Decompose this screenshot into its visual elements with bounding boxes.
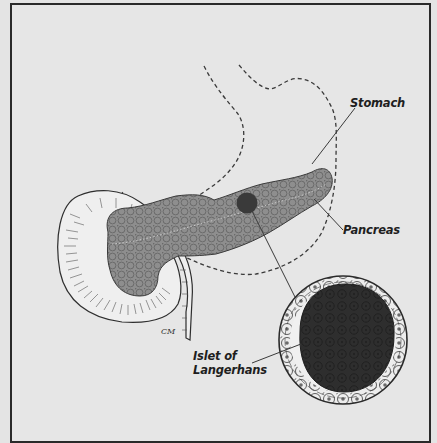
- islet-label-line2: Langerhans: [193, 363, 267, 377]
- islet-label: Islet of Langerhans: [193, 349, 267, 377]
- artist-signature: CM: [161, 327, 175, 336]
- stomach-label: Stomach: [350, 96, 405, 110]
- pancreas-label: Pancreas: [343, 223, 400, 237]
- islet-magnified: [279, 276, 407, 404]
- pancreas: [107, 169, 332, 296]
- islet-marker: [237, 193, 258, 214]
- islet-label-line1: Islet of: [193, 349, 267, 363]
